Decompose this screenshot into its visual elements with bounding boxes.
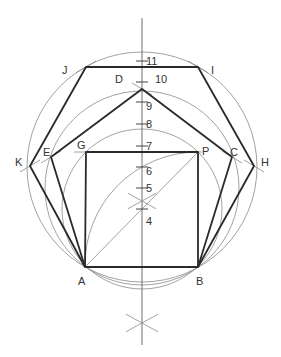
- point-label-I: I: [211, 64, 214, 76]
- tick-label-10: 10: [155, 73, 167, 85]
- point-label-D: D: [115, 73, 123, 85]
- tick-label-7: 7: [146, 140, 152, 152]
- point-label-K: K: [15, 156, 23, 168]
- tick-label-11: 11: [146, 55, 157, 67]
- diagram-canvas: 4567891011ABGPDECJIKH: [0, 0, 281, 357]
- point-label-J: J: [62, 64, 68, 76]
- point-label-E: E: [43, 146, 50, 158]
- tick-label-4: 4: [146, 215, 152, 227]
- point-label-A: A: [78, 275, 86, 287]
- tick-label-6: 6: [146, 165, 152, 177]
- point-label-P: P: [202, 145, 209, 157]
- tick-label-9: 9: [146, 100, 152, 112]
- tick-label-8: 8: [146, 118, 152, 130]
- point-label-C: C: [230, 146, 238, 158]
- point-label-G: G: [77, 139, 86, 151]
- point-label-B: B: [196, 275, 203, 287]
- point-label-H: H: [261, 156, 269, 168]
- geometry-diagram: 4567891011ABGPDECJIKH: [0, 0, 281, 357]
- tick-label-5: 5: [146, 182, 152, 194]
